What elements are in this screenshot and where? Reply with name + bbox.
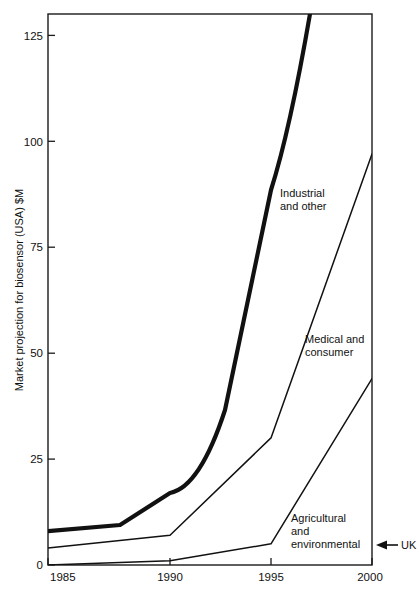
series-label-industrial-line1: Industrial xyxy=(280,187,325,199)
y-tick-label-75: 75 xyxy=(30,241,43,253)
biosensor-market-line-chart: 0 25 50 75 100 125 1985 1990 1995 2000 M… xyxy=(0,0,419,598)
y-axis-title: Market projection for biosensor (USA) $M xyxy=(13,189,25,391)
y-tick-label-125: 125 xyxy=(24,30,43,42)
series-label-industrial-line2: and other xyxy=(280,200,327,212)
y-tick-label-50: 50 xyxy=(30,347,43,359)
y-tick-label-0: 0 xyxy=(37,559,43,571)
series-label-medical-line1: Medical and xyxy=(305,333,364,345)
uk-label: UK xyxy=(401,539,417,551)
x-tick-label-1990: 1990 xyxy=(157,571,183,583)
chart-figure: 0 25 50 75 100 125 1985 1990 1995 2000 M… xyxy=(0,0,419,598)
series-label-agricultural-line1: Agricultural xyxy=(291,512,346,524)
y-tick-label-25: 25 xyxy=(30,453,43,465)
y-tick-label-100: 100 xyxy=(24,136,43,148)
uk-marker-arrow-icon xyxy=(376,541,398,550)
series-label-agricultural-line2: and xyxy=(291,525,309,537)
x-tick-label-1985: 1985 xyxy=(50,571,76,583)
series-label-agricultural-line3: environmental xyxy=(291,538,360,550)
series-label-medical-line2: consumer xyxy=(305,346,354,358)
x-tick-label-2000: 2000 xyxy=(357,571,383,583)
series-line-industrial-other xyxy=(48,14,310,531)
x-tick-label-1995: 1995 xyxy=(258,571,284,583)
